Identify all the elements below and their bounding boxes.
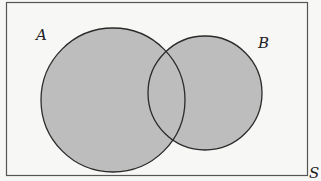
set-b-label: B bbox=[257, 34, 269, 52]
universe-label: S bbox=[309, 164, 319, 181]
set-a-label: A bbox=[34, 26, 47, 44]
venn-diagram: A B S bbox=[0, 0, 321, 181]
